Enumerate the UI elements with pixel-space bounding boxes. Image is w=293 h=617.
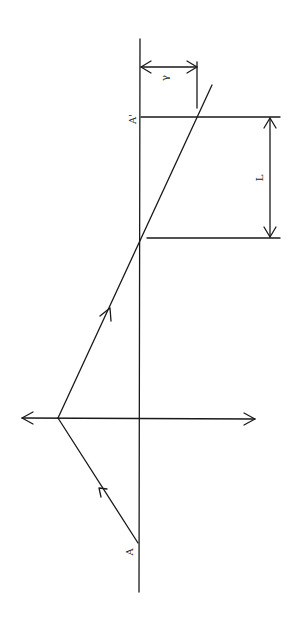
axis-line bbox=[139, 39, 140, 592]
a-label: A bbox=[124, 548, 135, 557]
ray-diagram: γ A' L A bbox=[0, 0, 293, 617]
reflected-ray bbox=[58, 85, 212, 418]
gamma-dimension-arrow bbox=[141, 61, 197, 73]
l-label: L bbox=[254, 174, 265, 181]
a-prime-label: A' bbox=[127, 114, 138, 125]
incident-ray bbox=[58, 418, 138, 543]
mirror-line bbox=[22, 412, 255, 425]
gamma-label: γ bbox=[159, 75, 170, 81]
l-dimension-arrow bbox=[264, 118, 276, 237]
